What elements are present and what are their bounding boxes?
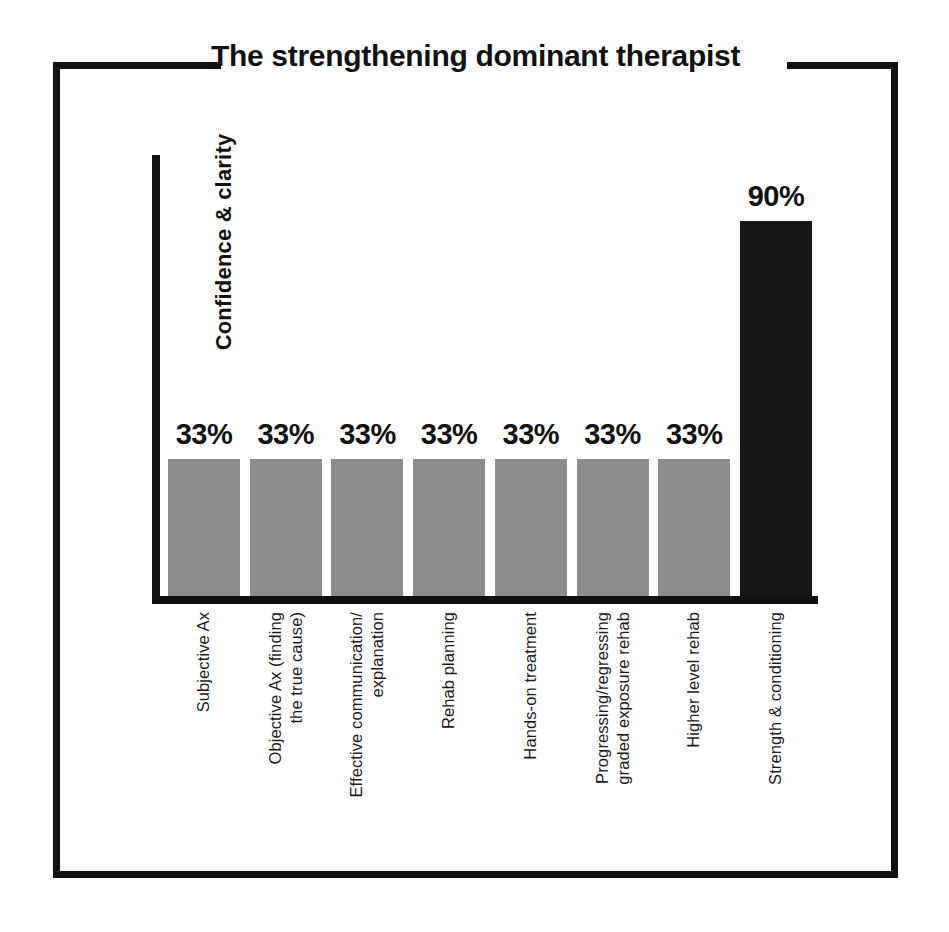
bar-value-label: 90% bbox=[748, 182, 805, 211]
bar-value-label: 33% bbox=[584, 420, 641, 449]
x-tick-label-line1: Rehab planning bbox=[440, 612, 458, 729]
x-tick-label-line2: explanation bbox=[367, 612, 388, 862]
bar-slot[interactable]: 33% bbox=[331, 162, 403, 596]
bar-value-label: 33% bbox=[176, 420, 233, 449]
x-tick-label-line2: the true cause) bbox=[286, 612, 307, 862]
x-tick-label: Hands-on treatment bbox=[495, 612, 567, 862]
bar-slot[interactable]: 33% bbox=[413, 162, 485, 596]
x-tick-label: Higher level rehab bbox=[658, 612, 730, 862]
bar-rect[interactable] bbox=[740, 221, 812, 596]
bar-slot[interactable]: 33% bbox=[658, 162, 730, 596]
bar-slot[interactable]: 33% bbox=[577, 162, 649, 596]
bar-value-label: 33% bbox=[421, 420, 478, 449]
x-tick-label-line1: Subjective Ax bbox=[194, 612, 212, 712]
bar-value-label: 33% bbox=[666, 420, 723, 449]
frame-left-edge bbox=[53, 62, 60, 878]
x-tick-label: Subjective Ax bbox=[168, 612, 240, 862]
x-axis-tick-labels: Subjective Ax Objective Ax (finding the … bbox=[152, 612, 818, 862]
bar-value-label: 33% bbox=[503, 420, 560, 449]
y-axis-line bbox=[152, 155, 160, 597]
x-tick-label-line1: Progressing/regressing bbox=[592, 612, 610, 784]
bar-rect[interactable] bbox=[495, 459, 567, 596]
bar-slot[interactable]: 33% bbox=[168, 162, 240, 596]
bar-value-label: 33% bbox=[339, 420, 396, 449]
x-tick-label-line1: Hands-on treatment bbox=[521, 612, 539, 760]
frame-bottom-edge bbox=[53, 871, 898, 878]
x-tick-label-line1: Objective Ax (finding bbox=[266, 612, 284, 765]
x-tick-label: Progressing/regressing graded exposure r… bbox=[577, 612, 649, 862]
bar-rect[interactable] bbox=[658, 459, 730, 596]
x-tick-label-line2: graded exposure rehab bbox=[613, 612, 634, 862]
bar-value-label: 33% bbox=[257, 420, 314, 449]
x-tick-label-line1: Higher level rehab bbox=[685, 612, 703, 748]
frame-right-edge bbox=[891, 62, 898, 878]
x-tick-label: Strength & conditioning bbox=[740, 612, 812, 862]
x-tick-label: Effective communication/ explanation bbox=[331, 612, 403, 862]
bar-rect[interactable] bbox=[413, 459, 485, 596]
plot-area: 33% 33% 33% 33% 33% 33% 33% 90% bbox=[152, 155, 818, 604]
bar-rect[interactable] bbox=[250, 459, 322, 596]
bar-rect[interactable] bbox=[331, 459, 403, 596]
bar-rect[interactable] bbox=[577, 459, 649, 596]
x-tick-label-line1: Strength & conditioning bbox=[766, 612, 784, 785]
x-tick-label: Objective Ax (finding the true cause) bbox=[250, 612, 322, 862]
bar-slot[interactable]: 33% bbox=[250, 162, 322, 596]
bar-group: 33% 33% 33% 33% 33% 33% 33% 90% bbox=[168, 162, 812, 596]
chart-title: The strengthening dominant therapist bbox=[53, 41, 898, 71]
x-axis-line bbox=[152, 596, 818, 604]
bar-rect[interactable] bbox=[168, 459, 240, 596]
bar-slot-highlight[interactable]: 90% bbox=[740, 162, 812, 596]
bar-slot[interactable]: 33% bbox=[495, 162, 567, 596]
x-tick-label: Rehab planning bbox=[413, 612, 485, 862]
x-tick-label-line1: Effective communication/ bbox=[347, 612, 365, 798]
